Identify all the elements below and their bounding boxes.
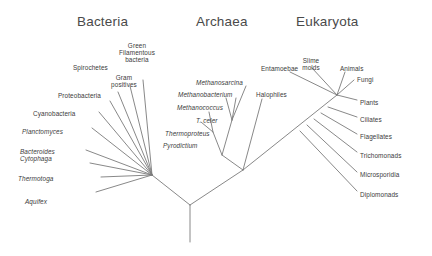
tree-branch [92, 128, 152, 175]
tree-branch [314, 119, 357, 152]
tree-branch [290, 72, 337, 95]
tree-branch [190, 170, 243, 205]
archaea-header: Archaea [196, 14, 248, 29]
taxon-label-cyanobacteria: Cyanobacteria [33, 110, 76, 117]
tree-branch [321, 113, 357, 134]
bacteria-header: Bacteria [77, 14, 128, 29]
tree-branch [232, 98, 236, 120]
tree-branch [232, 86, 246, 120]
tree-branch [300, 131, 357, 191]
tree-branch [222, 155, 243, 170]
tree-branch [312, 68, 337, 95]
tree-branch [96, 175, 152, 192]
taxon-label-trichomonads: Trichomonads [360, 152, 401, 159]
tree-branch [222, 120, 232, 155]
tree-branch [152, 175, 190, 205]
taxon-label-aquifex: Aquifex [25, 198, 47, 205]
tree-of-life-diagram: BacteriaArchaeaEukaryota SpirochetesGree… [0, 0, 432, 256]
taxon-label-methanosarcina: Methanosarcina [196, 79, 243, 86]
tree-branch [337, 95, 357, 100]
taxon-label-methanobacterium: Methanobacterium [178, 91, 233, 98]
taxon-label-animals: Animals [340, 65, 363, 72]
taxon-label-spirochetes: Spirochetes [73, 64, 108, 71]
taxon-label-ciliates: Ciliates [360, 116, 382, 123]
eukaryota-header: Eukaryota [296, 14, 359, 29]
taxon-label-flagellates: Flagellates [360, 133, 392, 140]
taxon-label-halophiles: Halophiles [256, 91, 287, 98]
taxon-label-pyrodictium: Pyrodictium [163, 142, 197, 149]
taxon-label-fungi: Fungi [357, 76, 374, 83]
taxon-label-diplomonads: Diplomonads [360, 191, 398, 198]
taxon-label-proteobacteria: Proteobacteria [58, 92, 101, 99]
tree-branch [328, 107, 357, 117]
tree-branch [243, 95, 337, 170]
taxon-label-gram-positives: Gram positives [94, 74, 154, 88]
tree-branch [90, 163, 152, 175]
taxon-label-planctomyces: Planctomyces [22, 128, 63, 135]
phylogenetic-tree-lines [0, 0, 432, 256]
taxon-label-thermotoga: Thermotoga [18, 175, 53, 182]
tree-branch [101, 175, 152, 177]
taxon-label-bacteroides-cytophaga: Bacteroides Cytophaga [20, 148, 55, 162]
taxon-label-green-filamentous-bacteria: Green Filamentous bacteria [107, 42, 167, 64]
taxon-label-methanococcus: Methanococcus [177, 104, 223, 111]
taxon-label-thermoproteus: Thermoproteus [165, 130, 210, 137]
tree-branch [86, 150, 152, 175]
tree-branch [243, 99, 262, 170]
taxon-label-plants: Plants [360, 99, 378, 106]
taxon-label-t-celer: T. celer [196, 117, 218, 124]
tree-branch [226, 98, 232, 120]
taxon-label-microsporidia: Microsporidia [360, 171, 399, 178]
tree-branch [213, 132, 222, 155]
taxon-label-slime-molds: Slime molds [281, 57, 341, 71]
